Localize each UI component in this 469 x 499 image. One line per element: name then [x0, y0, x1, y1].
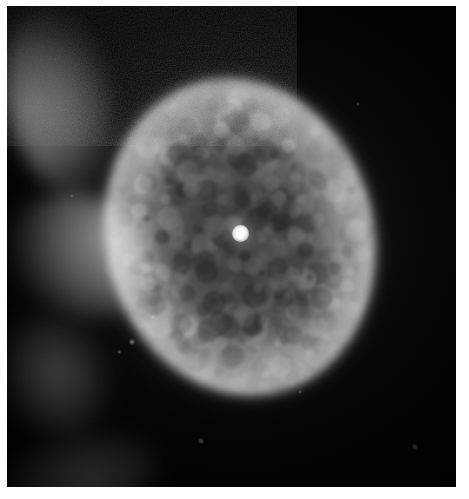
central-star [232, 225, 249, 242]
nebula-bright-limb-north [7, 424, 163, 487]
nebula-bright-limb-northwest [7, 303, 121, 449]
field-star [198, 438, 203, 443]
field-star [412, 444, 417, 449]
photograph-page [0, 0, 469, 499]
field-star [129, 339, 135, 345]
photographic-plate [7, 6, 456, 487]
